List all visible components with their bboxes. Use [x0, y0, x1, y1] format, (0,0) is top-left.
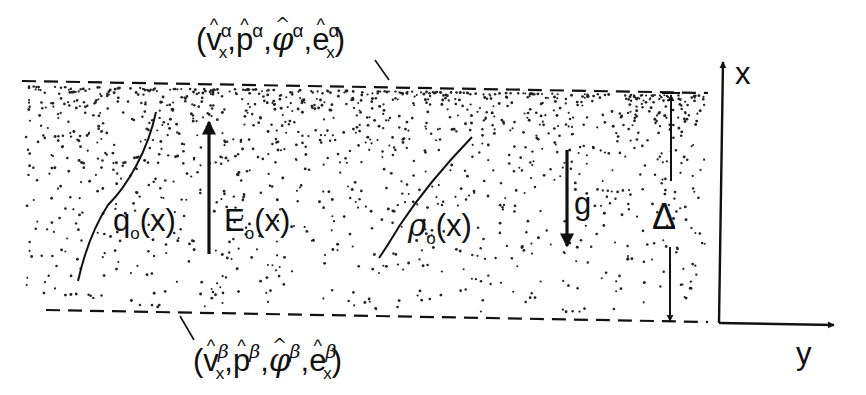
charge-profile-label: qo(x) — [113, 205, 176, 236]
x-axis-text: x — [735, 56, 751, 91]
gravity-label: g — [574, 188, 591, 219]
y-axis-arrow — [719, 323, 834, 325]
comma: , — [263, 22, 272, 57]
arg-x: (x) — [254, 203, 290, 238]
electric-field-label: Eo(x) — [224, 205, 290, 236]
rho-symbol: ρ — [408, 207, 426, 243]
sub-x: x — [216, 364, 225, 383]
sup-beta: β — [290, 340, 301, 362]
q-symbol: q — [113, 203, 130, 238]
bottom-interface-label: (vβx,pβ,φβ,eβx) — [193, 345, 342, 376]
top-interface-dashed-line — [22, 81, 708, 93]
paren-open: ( — [196, 22, 206, 57]
arg-x: (x) — [140, 203, 176, 238]
sup-alpha: α — [328, 20, 339, 41]
y-axis-text: y — [796, 336, 812, 371]
sup-alpha: α — [293, 20, 304, 41]
p-hat-symbol: p — [233, 345, 250, 376]
y-axis-label: y — [796, 338, 812, 369]
sub-o: o — [245, 224, 254, 243]
density-profile-label: ρo(x) — [408, 210, 472, 241]
p-hat-symbol: p — [236, 24, 253, 55]
comma: , — [260, 343, 269, 378]
sub-x: x — [219, 43, 228, 62]
sup-beta: β — [325, 340, 336, 362]
sup-beta: β — [249, 340, 260, 362]
phi-hat-symbol: φ — [272, 24, 294, 55]
paren-open: ( — [193, 343, 203, 378]
top-interface-label: (vαx,pα,φα,eαx) — [196, 24, 345, 55]
phi-hat-symbol: φ — [269, 345, 291, 376]
sup-alpha: α — [252, 20, 263, 41]
sup-beta: β — [218, 340, 229, 362]
g-symbol: g — [574, 186, 591, 221]
charge-profile-curve — [78, 112, 156, 281]
top-label-leader-line — [375, 60, 389, 80]
arg-x: (x) — [436, 208, 472, 243]
comma: , — [304, 22, 313, 57]
bottom-interface-dashed-line — [46, 310, 708, 322]
sup-alpha: α — [221, 20, 232, 41]
comma: , — [301, 343, 310, 378]
bottom-label-leader-line — [180, 316, 194, 340]
sub-x: x — [326, 43, 335, 62]
E-symbol: E — [224, 203, 245, 238]
sub-o: o — [426, 229, 435, 248]
sub-o: o — [130, 224, 139, 243]
delta-symbol: Δ — [652, 196, 676, 237]
x-axis-label: x — [735, 58, 751, 89]
x-axis-arrow — [719, 62, 723, 323]
sub-x: x — [323, 364, 332, 383]
stipple-density-dots — [25, 85, 706, 313]
thickness-label: Δ — [652, 199, 676, 235]
